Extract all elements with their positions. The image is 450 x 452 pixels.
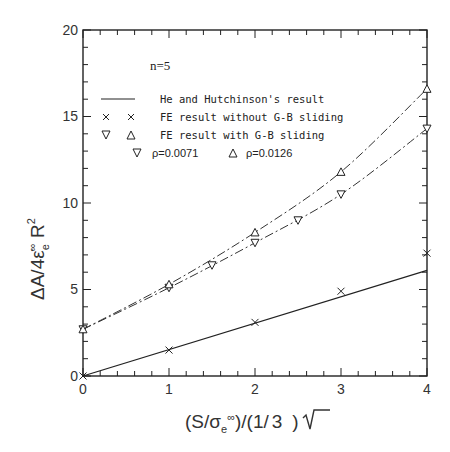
legend-x-marker-icon [103,114,134,120]
legend-label-he-hutchinson: He and Hutchinson's result [160,93,324,105]
svg-text:ΔA/4ε̇e∞ R2: ΔA/4ε̇e∞ R2 [25,218,51,300]
x-marker-icon [338,288,345,295]
n-annotation: n=5 [150,58,170,73]
y-tick-20: 20 [62,22,78,38]
y-tick-labels: 0 5 10 15 20 [62,22,78,384]
legend-up-triangle-icon [229,149,237,157]
he-hutchinson-line [83,270,427,376]
chart: 0 1 2 3 4 0 5 10 15 20 n=5 He and Hutchi… [0,0,450,452]
down-triangle-marker-icon [251,239,259,247]
legend-label-with-gb: FE result with G-B sliding [160,129,324,141]
legend-label-without-gb: FE result without G-B sliding [160,111,343,123]
down-triangle-marker-icon [208,262,216,270]
y-tick-0: 0 [70,368,78,384]
y-tick-10: 10 [62,195,78,211]
series-1 [80,250,431,380]
up-triangle-marker-icon [251,228,259,236]
dash-dot-curve [83,89,427,329]
up-triangle-marker-icon [423,85,431,93]
x-tick-3: 3 [337,381,345,397]
legend-label-rho-0071: ρ=0.0071 [152,147,198,159]
y-axis-title: ΔA/4ε̇e∞ R2 [25,218,51,300]
x-tick-4: 4 [423,381,431,397]
down-triangle-marker-icon [423,125,431,133]
down-triangle-marker-icon [294,217,302,225]
x-tick-0: 0 [79,381,87,397]
y-tick-5: 5 [70,281,78,297]
y-tick-15: 15 [62,108,78,124]
legend-label-rho-0126: ρ=0.0126 [246,147,292,159]
x-axis-title: (S/σe∞)/(1/3) [185,411,299,435]
down-triangle-marker-icon [337,191,345,199]
plot-frame [83,30,427,376]
axis-ticks [83,30,427,376]
x-tick-1: 1 [165,381,173,397]
legend-triangle-markers-icon [102,131,135,139]
x-tick-labels: 0 1 2 3 4 [79,381,431,397]
sqrt-icon [303,410,330,429]
legend-down-triangle-icon [133,149,141,157]
series-0 [83,270,427,376]
legend: He and Hutchinson's result FE result wit… [101,93,343,159]
x-tick-2: 2 [251,381,259,397]
